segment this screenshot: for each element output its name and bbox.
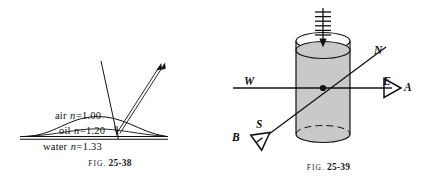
air-refractive-index-label: air n=1.00 [55, 110, 101, 121]
oil-medium-name: oil [59, 125, 71, 136]
caption-prefix-left: FIG. [88, 159, 106, 168]
caption-number-right: 25-39 [327, 162, 350, 172]
water-medium-name: water [43, 141, 67, 152]
figure-25-39: N S E W A B FIG.25-39 [220, 0, 437, 184]
scattering-point-marker [320, 85, 326, 91]
figure-25-38-caption: FIG.25-38 [0, 152, 220, 170]
figure-page: air n=1.00 oil n=1.20 water n=1.33 FIG.2… [0, 0, 437, 184]
observer-eye-b [251, 125, 276, 150]
incident-ray [101, 61, 117, 135]
figure-25-39-caption: FIG.25-39 [220, 156, 437, 174]
water-n-value: 1.33 [83, 141, 102, 152]
reflected-ray-2 [120, 63, 166, 134]
reflected-ray-2-line [120, 67, 163, 134]
air-n-value: 1.00 [82, 110, 101, 121]
eye-b-triangle [251, 125, 276, 150]
reflected-ray-1 [117, 63, 162, 134]
observer-label-b: B [232, 131, 240, 143]
oil-n-value: 1.20 [86, 125, 105, 136]
air-medium-name: air [55, 110, 67, 121]
caption-number-left: 25-38 [109, 158, 132, 168]
compass-label-east: E [383, 75, 391, 87]
figure-25-38: air n=1.00 oil n=1.20 water n=1.33 FIG.2… [0, 0, 220, 184]
water-refractive-index-label: water n=1.33 [43, 141, 102, 152]
water-surface-lines [20, 137, 168, 140]
compass-label-south: S [256, 118, 262, 130]
caption-prefix-right: FIG. [307, 163, 325, 172]
compass-label-west: W [244, 75, 254, 87]
liquid-fill [296, 50, 350, 143]
reflected-ray-1-line [117, 68, 159, 134]
compass-label-north: N [374, 44, 382, 56]
oil-refractive-index-label: oil n=1.20 [59, 125, 105, 136]
observer-label-a: A [404, 81, 412, 93]
